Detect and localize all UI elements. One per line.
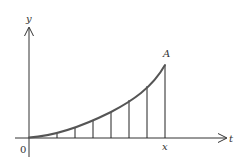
origin-label: 0	[20, 144, 26, 155]
area-under-curve-diagram: y 0 t x A	[0, 0, 242, 168]
y-axis-label: y	[25, 13, 32, 24]
point-a-label: A	[162, 48, 170, 59]
x-mark-label: x	[162, 141, 168, 152]
t-axis-label: t	[229, 133, 234, 144]
curve	[29, 65, 165, 138]
